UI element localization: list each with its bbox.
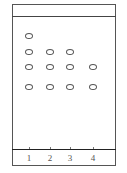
lane-tick (50, 147, 51, 149)
lane-label: 2 (45, 153, 55, 163)
chromatography-spot (46, 49, 54, 55)
origin-baseline (12, 149, 116, 150)
chromatography-spot (66, 64, 74, 70)
chromatography-spot (25, 33, 33, 39)
chromatography-spot (89, 64, 97, 70)
lane-label: 4 (88, 153, 98, 163)
chromatography-spot (46, 64, 54, 70)
solvent-front-line (12, 16, 116, 17)
lane-tick (70, 147, 71, 149)
lane-label: 3 (65, 153, 75, 163)
lane-tick (29, 147, 30, 149)
lane-tick (93, 147, 94, 149)
chromatography-spot (66, 49, 74, 55)
chromatography-spot (25, 49, 33, 55)
chromatography-spot (66, 84, 74, 90)
chromatography-spot (89, 84, 97, 90)
chromatography-spot (46, 84, 54, 90)
lane-label: 1 (24, 153, 34, 163)
chromatography-spot (25, 64, 33, 70)
chromatography-spot (25, 84, 33, 90)
